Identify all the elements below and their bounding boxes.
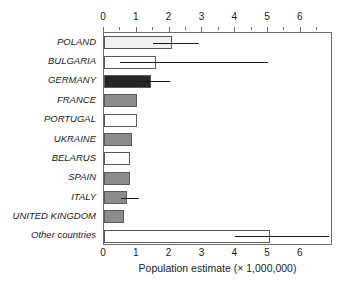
bar xyxy=(104,133,132,146)
category-label: GERMANY xyxy=(48,74,96,85)
bottom-tick-label: 1 xyxy=(126,248,146,258)
category-label: SPAIN xyxy=(68,171,96,182)
bar xyxy=(104,114,137,127)
tick-mark-minor xyxy=(316,27,317,30)
error-bar xyxy=(121,198,138,199)
top-tick-label: 2 xyxy=(159,12,179,22)
top-tick-label: 4 xyxy=(224,12,244,22)
plot-area xyxy=(103,32,332,245)
bottom-tick-label: 3 xyxy=(191,248,211,258)
tick-mark-minor xyxy=(251,27,252,30)
error-bar xyxy=(137,81,170,82)
error-bar xyxy=(235,236,329,237)
tick-mark-minor xyxy=(283,27,284,30)
bar xyxy=(104,94,137,107)
tick-mark-minor xyxy=(119,27,120,30)
tick-mark-minor xyxy=(185,27,186,30)
bar xyxy=(104,210,124,223)
error-bar xyxy=(153,43,199,44)
top-tick-label: 1 xyxy=(126,12,146,22)
bottom-tick-label: 2 xyxy=(159,248,179,258)
category-label: BULGARIA xyxy=(48,55,96,66)
bottom-tick-label: 6 xyxy=(290,248,310,258)
category-label: BELARUS xyxy=(52,152,96,163)
bottom-tick-label: 4 xyxy=(224,248,244,258)
population-bar-chart: 0123456 0123456 POLANDBULGARIAGERMANYFRA… xyxy=(0,0,349,287)
error-bar xyxy=(120,62,268,63)
top-tick-label: 3 xyxy=(191,12,211,22)
category-label: POLAND xyxy=(57,36,96,47)
bar xyxy=(104,152,130,165)
top-tick-label: 5 xyxy=(257,12,277,22)
x-axis-title: Population estimate (× 1,000,000) xyxy=(103,262,332,274)
category-label: UKRAINE xyxy=(54,133,96,144)
top-tick-label: 0 xyxy=(93,12,113,22)
tick-mark-minor xyxy=(218,27,219,30)
category-label: PORTUGAL xyxy=(44,113,96,124)
tick-mark-minor xyxy=(152,27,153,30)
top-tick-label: 6 xyxy=(290,12,310,22)
bottom-tick-label: 0 xyxy=(93,248,113,258)
category-label: Other countries xyxy=(31,229,96,240)
bottom-tick-label: 5 xyxy=(257,248,277,258)
category-label: ITALY xyxy=(71,191,96,202)
category-label: UNITED KINGDOM xyxy=(13,210,96,221)
category-label: FRANCE xyxy=(57,94,96,105)
bar xyxy=(104,172,130,185)
